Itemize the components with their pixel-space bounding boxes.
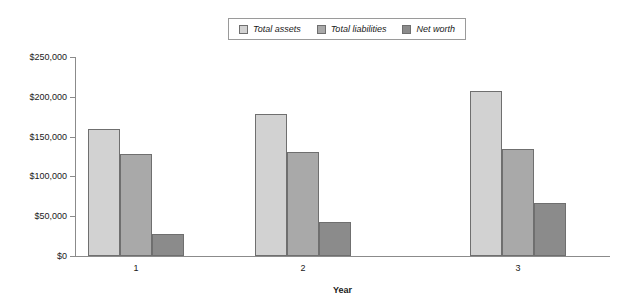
bar-chart: Total assets Total liabilities Net worth… <box>0 0 627 304</box>
y-axis-line <box>75 57 76 257</box>
x-axis-tick-label: 1 <box>133 263 138 273</box>
bar-net-worth-year-1 <box>152 234 184 256</box>
y-axis-tick-mark <box>70 216 75 217</box>
bar-total-assets-year-1 <box>88 129 120 256</box>
y-axis-tick-mark <box>70 176 75 177</box>
bar-group-year-2 <box>255 57 351 256</box>
legend-label-total-assets: Total assets <box>253 25 301 34</box>
chart-legend: Total assets Total liabilities Net worth <box>228 18 466 40</box>
legend-item-total-liabilities: Total liabilities <box>317 25 387 34</box>
bar-total-assets-year-2 <box>255 114 287 256</box>
legend-label-net-worth: Net worth <box>416 25 455 34</box>
plot-area: $0$50,000$100,000$150,000$200,000$250,00… <box>75 57 610 257</box>
bar-net-worth-year-2 <box>319 222 351 256</box>
y-axis-tick-label: $50,000 <box>34 211 67 221</box>
bar-total-liabilities-year-1 <box>120 154 152 256</box>
bar-group-year-1 <box>88 57 184 256</box>
y-axis-tick-mark <box>70 57 75 58</box>
bar-total-liabilities-year-3 <box>502 149 534 256</box>
legend-item-net-worth: Net worth <box>402 25 455 34</box>
legend-swatch-net-worth <box>402 25 411 34</box>
bar-total-assets-year-3 <box>470 91 502 256</box>
x-axis-tick-label: 2 <box>300 263 305 273</box>
y-axis-tick-label: $0 <box>57 251 67 261</box>
legend-swatch-total-liabilities <box>317 25 326 34</box>
legend-swatch-total-assets <box>239 25 248 34</box>
y-axis-tick-mark <box>70 137 75 138</box>
x-axis-tick-label: 3 <box>515 263 520 273</box>
bar-group-year-3 <box>470 57 566 256</box>
y-axis-tick-label: $150,000 <box>29 132 67 142</box>
y-axis-tick-label: $250,000 <box>29 52 67 62</box>
legend-label-total-liabilities: Total liabilities <box>331 25 387 34</box>
legend-item-total-assets: Total assets <box>239 25 301 34</box>
y-axis-tick-mark <box>70 97 75 98</box>
x-axis-title: Year <box>75 285 610 295</box>
bar-total-liabilities-year-2 <box>287 152 319 256</box>
y-axis-tick-label: $100,000 <box>29 171 67 181</box>
y-axis-tick-mark <box>70 256 75 257</box>
y-axis-tick-label: $200,000 <box>29 92 67 102</box>
x-axis-line <box>75 256 610 257</box>
bar-net-worth-year-3 <box>534 203 566 256</box>
